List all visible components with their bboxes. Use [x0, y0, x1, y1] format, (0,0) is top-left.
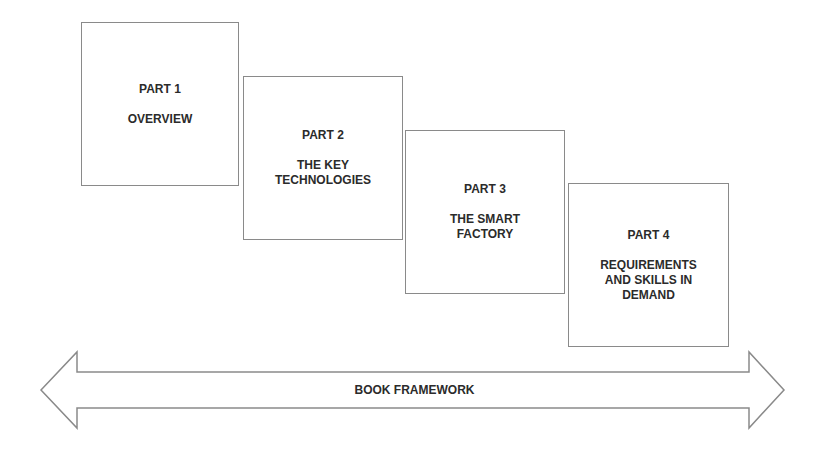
double-arrow-icon [0, 0, 829, 449]
book-framework-label: BOOK FRAMEWORK [0, 383, 829, 397]
